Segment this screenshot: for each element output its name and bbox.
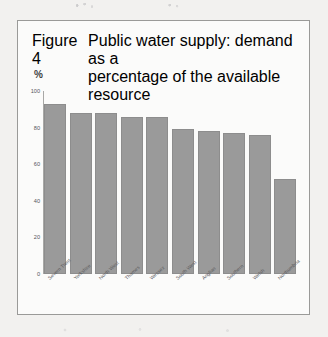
y-tick-label: 80 (34, 125, 40, 131)
y-tick-label: 100 (31, 88, 40, 94)
bar-rect (274, 179, 296, 274)
bar-rect (70, 113, 92, 274)
bar-rect (223, 133, 245, 274)
x-axis-tick-labels: Severn TrentYorkshireNorth WestThamesWes… (44, 277, 306, 317)
figure-frame: Figure 4 Public water supply: demand as … (17, 20, 310, 315)
scan-artifact-top (55, 2, 240, 9)
bar-rect (146, 117, 168, 274)
y-tick-label: 0 (37, 271, 40, 277)
bar-rect (198, 131, 220, 274)
y-axis-unit-label: % (34, 69, 43, 80)
y-tick-label: 60 (34, 161, 40, 167)
bar-rect (121, 117, 143, 274)
bar-rect (172, 129, 194, 274)
bar-chart-plot-area: % 020406080100 Severn TrentYorkshireNort… (18, 21, 311, 316)
y-tick-label: 20 (34, 234, 40, 240)
bar-rect (95, 113, 117, 274)
bar-series (44, 91, 302, 274)
y-tick-label: 40 (34, 198, 40, 204)
bar-rect (249, 135, 271, 274)
bar-rect (44, 104, 66, 274)
scan-artifact-bottom (40, 327, 290, 333)
